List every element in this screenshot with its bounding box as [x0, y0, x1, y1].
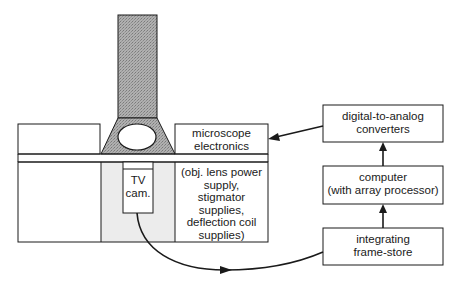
electronics-line-2: electronics	[175, 140, 268, 153]
dac-line-2: converters	[323, 123, 443, 136]
computer-line-2: (with array processor)	[323, 184, 443, 197]
objective-lens-icon	[118, 124, 156, 150]
supplies-line-2: supply,	[175, 179, 268, 192]
dac-line-1: digital-to-analog	[323, 110, 443, 123]
electronics-label: microscope electronics	[175, 127, 268, 152]
arrowhead-tv-path	[220, 266, 232, 274]
arrowhead-to-electronics	[268, 133, 280, 141]
tv-camera-label: TV cam.	[123, 174, 153, 199]
upper-left-box	[18, 124, 100, 154]
frame-store-line-1: integrating	[323, 233, 443, 246]
computer-label: computer (with array processor)	[323, 171, 443, 196]
supplies-line-1: (obj. lens power	[175, 166, 268, 179]
supplies-line-5: deflection coil	[175, 216, 268, 229]
frame-store-label: integrating frame-store	[323, 233, 443, 258]
supplies-line-3: stigmator	[175, 191, 268, 204]
arrowhead-to-dac	[379, 142, 387, 151]
arrow-dac-to-electronics	[276, 126, 323, 137]
arrowhead-to-computer	[379, 204, 387, 213]
dac-label: digital-to-analog converters	[323, 110, 443, 135]
tv-camera-line-1: TV	[123, 174, 153, 187]
frame-store-line-2: frame-store	[323, 246, 443, 259]
microscope-column	[118, 15, 157, 118]
tv-camera-line-2: cam.	[123, 187, 153, 200]
electronics-line-1: microscope	[175, 127, 268, 140]
computer-line-1: computer	[323, 171, 443, 184]
supplies-line-4: supplies,	[175, 204, 268, 217]
supplies-label: (obj. lens power supply, stigmator suppl…	[175, 166, 268, 241]
supplies-line-6: supplies)	[175, 229, 268, 242]
